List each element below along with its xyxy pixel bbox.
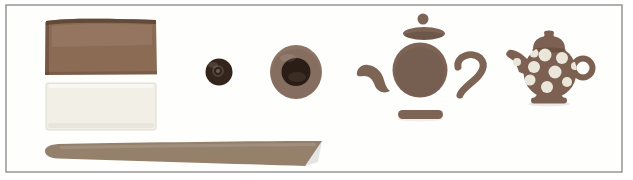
teapot-knob xyxy=(544,31,554,36)
teapot-spout-dot xyxy=(513,58,521,66)
craft-tutorial-photo xyxy=(0,0,633,180)
white-slab-top-highlight xyxy=(48,84,154,88)
small-ball-center-dimple xyxy=(216,69,220,73)
polka-dot xyxy=(539,49,552,62)
white-slab-face xyxy=(46,83,156,130)
parts-base xyxy=(398,110,443,119)
pinch-pot-highlight xyxy=(280,54,296,62)
polka-dot xyxy=(525,75,536,86)
brown-clay-slab xyxy=(45,19,157,75)
small-clay-ball xyxy=(206,59,233,86)
polka-dot xyxy=(562,77,572,87)
parts-lid-knob xyxy=(418,14,429,25)
brown-slab-sheen xyxy=(52,24,152,47)
polka-dot xyxy=(549,66,562,79)
brown-slab-left-edge xyxy=(45,22,49,75)
scene-canvas xyxy=(0,0,633,180)
parts-lid-underside-shade xyxy=(405,32,443,40)
polka-dot xyxy=(528,61,540,73)
white-clay-slab xyxy=(46,83,156,130)
teapot-base-foot xyxy=(531,98,567,104)
pinch-pot xyxy=(270,45,322,99)
pinch-pot-hollow-sheen xyxy=(288,72,306,82)
polka-dot xyxy=(556,52,568,64)
small-ball-highlight xyxy=(208,62,218,68)
parts-body-shade xyxy=(395,47,445,97)
polka-dot xyxy=(541,81,553,93)
white-slab-bottom-shade xyxy=(48,123,154,128)
